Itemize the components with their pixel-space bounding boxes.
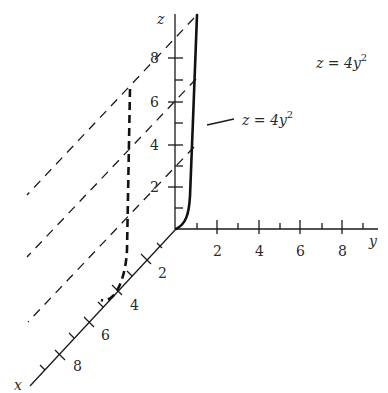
x-axis — [30, 229, 176, 386]
z-tick-label-2: 2 — [150, 179, 159, 195]
y-tick-label-4: 4 — [255, 243, 264, 259]
x-tick-label-6: 6 — [101, 327, 110, 343]
solid-trace-curve — [176, 15, 197, 229]
rulings — [27, 18, 196, 322]
z-axis — [168, 14, 183, 229]
z-tick-label-6: 6 — [150, 94, 159, 110]
curve-equation-exponent: 2 — [287, 109, 293, 120]
x-axis-label: x — [14, 377, 22, 393]
surface-equation-text: z = 4y — [315, 55, 362, 71]
x-tick-label-2: 2 — [158, 265, 167, 281]
curve-equation-label: z = 4y2 — [241, 109, 293, 128]
ruling-line-top — [27, 18, 194, 195]
y-axis — [175, 220, 378, 234]
y-tick-label-6: 6 — [296, 243, 305, 259]
curve-equation-text: z = 4y — [241, 112, 288, 128]
x-tick-label-8: 8 — [73, 358, 82, 374]
surface-equation-label: z = 4y2 — [315, 52, 367, 71]
dashed-trace-curve — [101, 89, 130, 300]
y-tick-label-2: 2 — [213, 243, 222, 259]
z-axis-label: z — [156, 11, 165, 27]
z-tick-label-8: 8 — [150, 50, 159, 66]
ruling-line-bottom — [28, 147, 194, 322]
figure-canvas: z 8 6 4 2 y 2 4 6 8 x 2 4 6 8 — [0, 0, 388, 393]
y-tick-label-8: 8 — [338, 243, 347, 259]
surface-equation-exponent: 2 — [361, 52, 367, 63]
y-axis-label: y — [368, 233, 378, 249]
label-leader-line — [207, 119, 234, 125]
x-tick-label-4: 4 — [130, 297, 139, 313]
diagram-svg: z 8 6 4 2 y 2 4 6 8 x 2 4 6 8 — [0, 0, 388, 393]
z-tick-label-4: 4 — [150, 137, 159, 153]
